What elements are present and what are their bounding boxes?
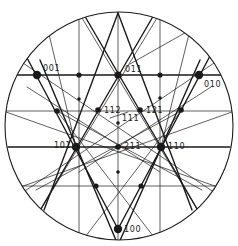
- primitive-circle: [5, 12, 233, 240]
- pole-s2: [158, 96, 162, 100]
- pole-label-112: 112: [104, 106, 121, 115]
- pole-101: [72, 143, 80, 151]
- pole-label-110: 110: [168, 142, 185, 151]
- pole-c1: [116, 170, 120, 174]
- pole-211: [115, 144, 121, 150]
- zone-line-thin: [161, 30, 190, 147]
- pole-121: [137, 107, 143, 113]
- pole-b1: [93, 183, 98, 188]
- pole-001: [33, 71, 41, 79]
- pole-label-001: 001: [43, 64, 60, 73]
- pole-100: [114, 225, 122, 233]
- pole-011: [114, 71, 121, 78]
- zone-line-thin: [12, 112, 232, 190]
- pole-label-011: 011: [125, 65, 142, 74]
- zone-lines: [5, 12, 233, 245]
- pole-label-211: 211: [124, 142, 141, 151]
- pole-b2: [138, 183, 143, 188]
- pole-t2: [157, 72, 162, 77]
- pole-010: [195, 71, 203, 79]
- pole-label-111: 111: [122, 114, 139, 123]
- pole-label-121: 121: [146, 106, 163, 115]
- pole-111: [116, 121, 120, 125]
- zone-line-thin: [27, 87, 160, 172]
- pole-110: [157, 143, 165, 151]
- pole-112: [95, 107, 101, 113]
- pole-t1: [76, 72, 81, 77]
- projection-svg: 001011010112121111101211110100: [0, 0, 238, 246]
- pole-o1: [54, 108, 60, 114]
- pole-label-010: 010: [204, 80, 221, 89]
- pole-s1: [77, 97, 81, 101]
- pole-label-101: 101: [54, 141, 71, 150]
- zone-line-thick: [26, 56, 118, 229]
- zone-line-thin: [6, 112, 226, 190]
- zone-line-thin: [16, 61, 217, 197]
- stereographic-projection: 001011010112121111101211110100: [0, 0, 238, 246]
- pole-label-100: 100: [124, 225, 141, 234]
- pole-o2: [178, 107, 184, 113]
